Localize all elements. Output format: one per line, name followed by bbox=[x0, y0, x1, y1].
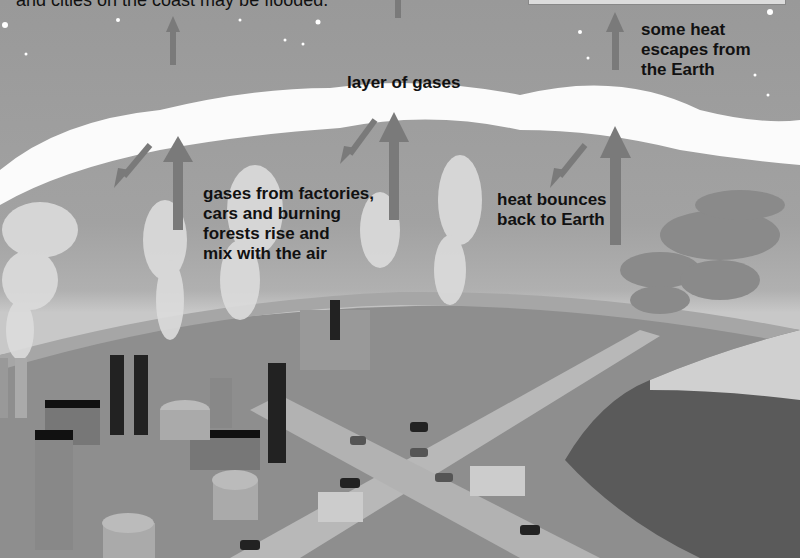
label-layer-of-gases: layer of gases bbox=[347, 73, 460, 93]
caption-panel-edge bbox=[528, 0, 786, 5]
label-gases-rise: gases from factories, cars and burning f… bbox=[203, 184, 374, 264]
greenhouse-diagram: and cities on the coast may be flooded. … bbox=[0, 0, 800, 558]
top-caption: and cities on the coast may be flooded. bbox=[16, 0, 328, 11]
label-heat-escapes: some heat escapes from the Earth bbox=[641, 20, 751, 80]
label-heat-bounces: heat bounces back to Earth bbox=[497, 190, 607, 230]
forest-smoke bbox=[620, 190, 785, 314]
layer-of-gases-cloud bbox=[0, 83, 800, 205]
